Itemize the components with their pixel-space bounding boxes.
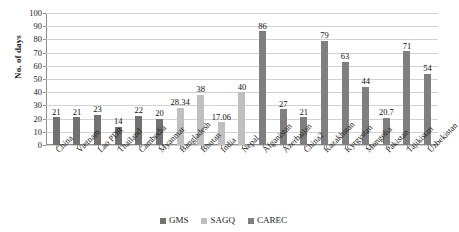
y-axis-tick-label: 80: [34, 35, 43, 44]
bar-value-label: 23: [93, 105, 102, 114]
bar-slot: 23: [87, 13, 108, 145]
y-axis-tick-label: 100: [29, 9, 42, 18]
x-axis-label-slot: Thailand: [108, 147, 129, 199]
bar-value-label: 20: [155, 109, 164, 118]
y-axis-tick-label: 50: [34, 75, 43, 84]
x-axis-label-slot: Vietnam: [67, 147, 88, 199]
legend-item-carec: CAREC: [248, 216, 287, 225]
bar-value-label: 22: [135, 106, 144, 115]
bar-value-label: 54: [423, 64, 432, 73]
bar-series-container: 21212314222028.343817.064086272179634420…: [46, 13, 438, 145]
bar-value-label: 38: [196, 85, 205, 94]
bar-value-label: 21: [52, 108, 61, 117]
bar: 86: [259, 31, 266, 145]
x-axis-label-slot: Myanmar: [149, 147, 170, 199]
y-axis-tick-label: 10: [34, 128, 43, 137]
x-axis-label-slot: Bangladesh: [170, 147, 191, 199]
x-axis-label-slot: Nepal: [232, 147, 253, 199]
bar-slot: 22: [129, 13, 150, 145]
bar-slot: 17.06: [211, 13, 232, 145]
bar-value-label: 71: [403, 42, 412, 51]
x-axis-label-slot: Uzbekistan: [417, 147, 438, 199]
legend-label-carec: CAREC: [257, 216, 287, 225]
bar-slot: 71: [397, 13, 418, 145]
plot-area: 1009080706050403020100 21212314222028.34…: [46, 13, 438, 145]
bar-slot: 21: [67, 13, 88, 145]
bar-value-label: 28.34: [171, 98, 190, 107]
x-axis-label-slot: Pakistan: [376, 147, 397, 199]
x-axis-label-slot: Azerbaijan: [273, 147, 294, 199]
x-axis-label-slot: China2: [294, 147, 315, 199]
bar-value-label: 17.06: [212, 113, 231, 122]
y-axis-tick-label: 70: [34, 48, 43, 57]
legend-item-gms: GMS: [160, 216, 189, 225]
x-axis-label-slot: Kyrgystan: [335, 147, 356, 199]
x-axis-label-slot: Afganistan: [252, 147, 273, 199]
x-axis-label-slot: Cambodia: [129, 147, 150, 199]
y-axis-tick-mark: [43, 145, 46, 146]
legend-swatch-carec: [248, 218, 254, 224]
y-axis-tick-label: 40: [34, 88, 43, 97]
x-axis-label-slot: India: [211, 147, 232, 199]
bar-value-label: 79: [320, 31, 329, 40]
bar: 40: [238, 92, 245, 145]
x-axis-label-slot: Tajikistan: [397, 147, 418, 199]
legend-item-sagq: SAGQ: [201, 216, 235, 225]
y-axis-tick-label: 90: [34, 22, 43, 31]
x-axis-label-slot: Lao PDR: [87, 147, 108, 199]
bar-value-label: 86: [258, 22, 267, 31]
bar-slot: 40: [232, 13, 253, 145]
legend-label-gms: GMS: [169, 216, 189, 225]
legend-label-sagq: SAGQ: [210, 216, 235, 225]
y-axis-tick-label: 60: [34, 62, 43, 71]
x-axis-label-slot: Mongolia: [355, 147, 376, 199]
legend-swatch-gms: [160, 218, 166, 224]
y-axis-tick-label: 20: [34, 114, 43, 123]
bar-slot: 21: [46, 13, 67, 145]
bar-slot: 86: [252, 13, 273, 145]
bar-slot: 79: [314, 13, 335, 145]
legend-swatch-sagq: [201, 218, 207, 224]
x-axis-label-slot: Kazakhstan: [314, 147, 335, 199]
chart-legend: GMS SAGQ CAREC: [0, 216, 447, 225]
y-axis-tick-label: 0: [38, 141, 42, 150]
bar-value-label: 63: [341, 52, 350, 61]
bar-value-label: 21: [300, 108, 309, 117]
x-axis-label-slot: China: [46, 147, 67, 199]
y-axis-title: No. of days: [13, 17, 23, 97]
x-axis-labels: ChinaVietnamLao PDRThailandCambodiaMyanm…: [46, 147, 438, 199]
bar-value-label: 20.7: [379, 108, 394, 117]
bar-value-label: 21: [73, 108, 82, 117]
x-axis-label-slot: Bhutan: [190, 147, 211, 199]
bar-value-label: 40: [238, 83, 247, 92]
bar-value-label: 44: [361, 77, 370, 86]
y-axis-tick-label: 30: [34, 101, 43, 110]
bar: 79: [321, 41, 328, 145]
bar-value-label: 27: [279, 100, 288, 109]
